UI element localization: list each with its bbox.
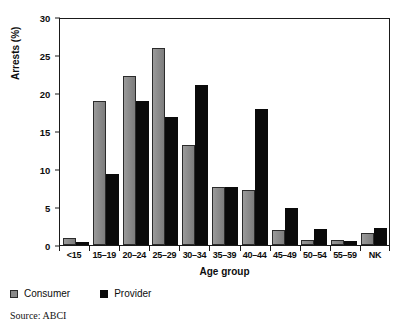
legend-item-consumer: Consumer: [10, 288, 70, 299]
legend-label-consumer: Consumer: [24, 288, 70, 299]
bar-group: [270, 18, 300, 245]
bar-group: [240, 18, 270, 245]
plot-area: Arrests (%) 051015202530 <1515–1920–2425…: [0, 0, 403, 262]
bar-group: [329, 18, 359, 245]
x-axis-title: Age group: [59, 266, 390, 277]
bar-provider: [285, 208, 298, 245]
y-axis-tick: 5: [55, 208, 60, 209]
bar-provider: [165, 117, 178, 245]
y-axis-tick: 20: [55, 94, 60, 95]
x-axis-tick-label: 55–59: [330, 250, 360, 264]
x-axis-tick-label: 15–19: [89, 250, 119, 264]
bar-provider: [136, 101, 149, 245]
gray-square-swatch-icon: [10, 290, 18, 298]
bar-provider: [106, 174, 119, 245]
x-axis-tick-label: 45–49: [270, 250, 300, 264]
bar-group: [300, 18, 330, 245]
y-axis-tick-label: 10: [40, 165, 50, 176]
bar-consumer: [361, 233, 374, 245]
bar-consumer: [152, 48, 165, 245]
legend-item-provider: Provider: [100, 288, 151, 299]
y-axis-tick: 30: [55, 18, 60, 19]
y-axis-title: Arrests (%): [10, 27, 21, 80]
bar-group: [359, 18, 389, 245]
y-axis-tick-label: 20: [40, 89, 50, 100]
bar-provider: [255, 109, 268, 245]
plot-axes: 051015202530: [59, 18, 390, 246]
bar-group: [210, 18, 240, 245]
source-note: Source: ABCI: [10, 310, 66, 321]
bar-consumer: [242, 190, 255, 245]
black-square-swatch-icon: [100, 290, 108, 298]
bar-chart-figure: Arrests (%) 051015202530 <1515–1920–2425…: [0, 0, 403, 331]
x-axis-tick-label: 50–54: [300, 250, 330, 264]
bar-groups-container: [60, 18, 390, 245]
y-axis-tick-label: 30: [40, 13, 50, 24]
legend-label-provider: Provider: [114, 288, 151, 299]
bar-group: [180, 18, 210, 245]
bar-provider: [344, 241, 357, 245]
bar-group: [61, 18, 91, 245]
x-axis-tick-label: <15: [59, 250, 89, 264]
y-axis-tick-label: 5: [45, 203, 50, 214]
bar-consumer: [63, 238, 76, 245]
bar-consumer: [331, 240, 344, 245]
bar-provider: [374, 228, 387, 245]
x-axis-tick-label: 30–34: [179, 250, 209, 264]
bar-consumer: [123, 76, 136, 245]
bar-consumer: [212, 187, 225, 245]
y-axis-tick: 25: [55, 56, 60, 57]
x-axis-tick-label: NK: [360, 250, 390, 264]
bar-provider: [195, 85, 208, 245]
bar-consumer: [93, 101, 106, 245]
bar-group: [150, 18, 180, 245]
y-axis-tick-label: 25: [40, 51, 50, 62]
x-axis-tick-labels: <1515–1920–2425–2930–3435–3940–4445–4950…: [59, 250, 390, 264]
bar-group: [121, 18, 151, 245]
x-axis-tick-label: 35–39: [209, 250, 239, 264]
x-axis-tick-label: 25–29: [149, 250, 179, 264]
y-axis-tick: 15: [55, 132, 60, 133]
bar-consumer: [272, 230, 285, 245]
bar-consumer: [301, 240, 314, 245]
y-axis-tick-label: 15: [40, 127, 50, 138]
y-axis-tick: 10: [55, 170, 60, 171]
chart-legend: Consumer Provider: [10, 288, 151, 299]
bar-provider: [225, 187, 238, 245]
y-axis-tick-label: 0: [45, 241, 50, 252]
bar-consumer: [182, 145, 195, 245]
x-axis-tick-label: 20–24: [119, 250, 149, 264]
bar-provider: [76, 242, 89, 245]
bar-group: [91, 18, 121, 245]
bar-provider: [314, 229, 327, 245]
x-axis-tick-label: 40–44: [240, 250, 270, 264]
